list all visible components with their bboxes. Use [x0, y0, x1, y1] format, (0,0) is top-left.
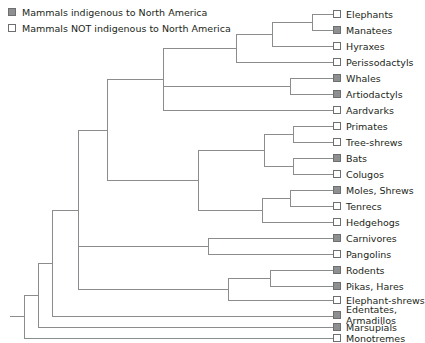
taxon-colugos[interactable]: Colugos: [333, 167, 384, 181]
taxon-label: Tenrecs: [346, 201, 382, 212]
taxon-checkbox-icon: [333, 154, 341, 162]
taxon-hedgehogs[interactable]: Hedgehogs: [333, 215, 400, 229]
taxon-checkbox-icon: [333, 282, 341, 290]
taxon-checkbox-icon: [333, 250, 341, 258]
taxon-checkbox-icon: [333, 58, 341, 66]
taxon-aardvarks[interactable]: Aardvarks: [333, 103, 394, 117]
taxon-checkbox-icon: [333, 218, 341, 226]
taxon-checkbox-icon: [333, 74, 341, 82]
taxon-checkbox-icon: [333, 106, 341, 114]
taxon-label: Manatees: [346, 25, 392, 36]
taxon-bats[interactable]: Bats: [333, 151, 367, 165]
taxon-whales[interactable]: Whales: [333, 71, 381, 85]
taxon-manatees[interactable]: Manatees: [333, 23, 392, 37]
taxon-label: Moles, Shrews: [346, 185, 414, 196]
taxon-label: Artiodactyls: [346, 89, 403, 100]
taxon-carnivores[interactable]: Carnivores: [333, 231, 397, 245]
taxon-tenrecs[interactable]: Tenrecs: [333, 199, 382, 213]
taxon-checkbox-icon: [333, 296, 341, 304]
taxon-label: Bats: [346, 153, 367, 164]
taxon-label: Carnivores: [346, 233, 397, 244]
taxon-label: Tree-shrews: [346, 137, 402, 148]
taxon-pikas-hares[interactable]: Pikas, Hares: [333, 279, 404, 293]
taxon-label: Pangolins: [346, 249, 391, 260]
taxon-checkbox-icon: [333, 311, 341, 319]
taxon-label: Colugos: [346, 169, 384, 180]
taxon-elephants[interactable]: Elephants: [333, 7, 393, 21]
taxon-primates[interactable]: Primates: [333, 119, 388, 133]
taxon-artiodactyls[interactable]: Artiodactyls: [333, 87, 403, 101]
taxon-checkbox-icon: [333, 42, 341, 50]
taxon-perissodactyls[interactable]: Perissodactyls: [333, 55, 414, 69]
taxon-label: Rodents: [346, 265, 385, 276]
taxon-label: Hyraxes: [346, 41, 385, 52]
taxon-checkbox-icon: [333, 26, 341, 34]
taxon-checkbox-icon: [333, 138, 341, 146]
taxon-label: Pikas, Hares: [346, 281, 404, 292]
taxon-monotremes[interactable]: Monotremes: [333, 331, 405, 343]
taxon-moles-shrews[interactable]: Moles, Shrews: [333, 183, 414, 197]
taxon-label: Whales: [346, 73, 381, 84]
taxon-checkbox-icon: [333, 90, 341, 98]
taxon-checkbox-icon: [333, 122, 341, 130]
taxon-checkbox-icon: [333, 323, 341, 331]
taxon-checkbox-icon: [333, 170, 341, 178]
taxon-label: Hedgehogs: [346, 217, 400, 228]
taxon-tree-shrews[interactable]: Tree-shrews: [333, 135, 402, 149]
taxon-checkbox-icon: [333, 234, 341, 242]
taxon-label: Monotremes: [346, 333, 405, 343]
taxon-label: Elephants: [346, 9, 393, 20]
taxon-checkbox-icon: [333, 334, 341, 342]
taxon-checkbox-icon: [333, 10, 341, 18]
taxon-label: Aardvarks: [346, 105, 394, 116]
taxon-checkbox-icon: [333, 186, 341, 194]
taxon-pangolins[interactable]: Pangolins: [333, 247, 391, 261]
cladogram-figure: Mammals indigenous to North America Mamm…: [0, 0, 425, 343]
taxon-label: Perissodactyls: [346, 57, 414, 68]
taxon-checkbox-icon: [333, 202, 341, 210]
taxon-rodents[interactable]: Rodents: [333, 263, 385, 277]
taxon-hyraxes[interactable]: Hyraxes: [333, 39, 385, 53]
taxon-checkbox-icon: [333, 266, 341, 274]
taxon-label: Primates: [346, 121, 388, 132]
